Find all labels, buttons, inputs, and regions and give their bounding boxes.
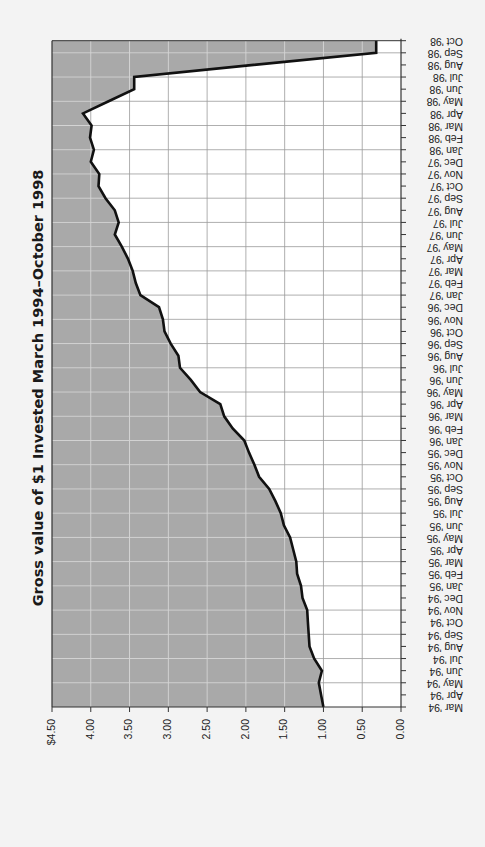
month-tick-label: Feb '96 — [428, 424, 463, 436]
month-tick-label: Nov '95 — [428, 460, 463, 472]
value-tick-label: 3.50 — [122, 719, 134, 740]
month-tick-label: Apr '94 — [430, 690, 463, 702]
month-tick-label: Jun '94 — [429, 666, 463, 678]
value-tick-label: 4.00 — [84, 719, 96, 740]
month-tick-label: Sep '98 — [428, 48, 463, 60]
month-tick-label: Dec '96 — [428, 302, 463, 314]
value-tick-label: 1.00 — [316, 719, 328, 740]
month-tick-label: Jun '98 — [429, 84, 463, 96]
month-tick-label: Feb '97 — [428, 278, 463, 290]
value-tick-label: 3.00 — [161, 719, 173, 740]
value-tick-label: $4.50 — [45, 719, 57, 745]
month-tick-label: Dec '94 — [428, 593, 463, 605]
month-tick-label: Feb '95 — [428, 569, 463, 581]
month-tick-label: Jan '97 — [429, 290, 463, 302]
month-tick-label: Jul '98 — [433, 72, 463, 84]
month-tick-label: Apr '96 — [430, 399, 463, 411]
month-tick-label: Mar '94 — [428, 702, 463, 714]
value-tick-label: 0.50 — [355, 719, 367, 740]
month-tick-label: Oct '94 — [430, 617, 463, 629]
month-tick-label: Oct '95 — [430, 472, 463, 484]
month-tick-label: Sep '97 — [428, 193, 463, 205]
month-tick-label: Jul '95 — [433, 508, 463, 520]
month-tick-label: Aug '96 — [428, 351, 463, 363]
month-tick-label: Dec '95 — [428, 448, 463, 460]
month-tick-label: Aug '98 — [428, 60, 463, 72]
month-tick-label: Oct '97 — [430, 181, 463, 193]
month-tick-label: May '95 — [426, 533, 463, 545]
month-tick-label: Nov '97 — [428, 169, 463, 181]
month-tick-label: Jun '96 — [429, 375, 463, 387]
month-tick-label: Jul '94 — [433, 654, 463, 666]
month-tick-label: Mar '97 — [428, 266, 463, 278]
time-axis: Mar '94Apr '94May '94Jun '94Jul '94Aug '… — [401, 36, 463, 714]
value-tick-label: 1.50 — [277, 719, 289, 740]
month-tick-label: Mar '95 — [428, 557, 463, 569]
month-tick-label: Apr '98 — [430, 109, 463, 121]
month-tick-label: Mar '98 — [428, 121, 463, 133]
month-tick-label: Oct '96 — [430, 327, 463, 339]
month-tick-label: Oct '98 — [430, 36, 463, 48]
month-tick-label: Apr '97 — [430, 254, 463, 266]
value-tick-label: 0.00 — [394, 719, 406, 740]
month-tick-label: Jan '95 — [429, 581, 463, 593]
month-tick-label: Apr '95 — [430, 545, 463, 557]
month-tick-label: May '98 — [426, 96, 463, 108]
month-tick-label: Nov '94 — [428, 605, 463, 617]
month-tick-label: Jan '96 — [429, 436, 463, 448]
month-tick-label: Jun '97 — [429, 230, 463, 242]
month-tick-label: May '97 — [426, 242, 463, 254]
month-tick-label: Aug '95 — [428, 496, 463, 508]
month-tick-label: Sep '94 — [428, 630, 463, 642]
value-tick-label: 2.50 — [200, 719, 212, 740]
month-tick-label: Jul '96 — [433, 363, 463, 375]
month-tick-label: Feb '98 — [428, 133, 463, 145]
month-tick-label: Dec '97 — [428, 157, 463, 169]
month-tick-label: Sep '96 — [428, 339, 463, 351]
month-tick-label: May '94 — [426, 678, 463, 690]
chart-title: Gross value of $1 Invested March 1994–Oc… — [30, 170, 46, 607]
month-tick-label: Mar '96 — [428, 411, 463, 423]
month-tick-label: Nov '96 — [428, 315, 463, 327]
value-tick-label: 2.00 — [239, 719, 251, 740]
month-tick-label: Jan '98 — [429, 145, 463, 157]
month-tick-label: Jul '97 — [433, 218, 463, 230]
chart-plot: $4.504.003.503.002.502.001.501.000.500.0… — [0, 0, 485, 847]
month-tick-label: Aug '94 — [428, 642, 463, 654]
chart-container: Gross value of $1 Invested March 1994–Oc… — [0, 0, 485, 847]
month-tick-label: Jun '95 — [429, 521, 463, 533]
month-tick-label: Aug '97 — [428, 206, 463, 218]
month-tick-label: May '96 — [426, 387, 463, 399]
value-axis: $4.504.003.503.002.502.001.501.000.500.0… — [45, 707, 406, 745]
month-tick-label: Sep '95 — [428, 484, 463, 496]
